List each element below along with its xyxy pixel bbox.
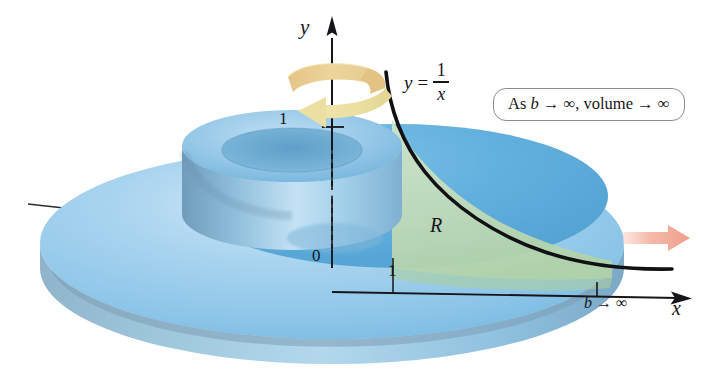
region-label-R: R — [430, 215, 442, 235]
motion-arrow — [623, 225, 690, 251]
callout-variable: b — [530, 94, 538, 113]
x-axis-label: x — [672, 298, 681, 318]
curve-equation-label: y = 1 x — [404, 62, 449, 104]
figure-container: y x 1 0 1 R b → ∞ y = 1 x As b → ∞, volu… — [0, 0, 715, 374]
origin-label: 0 — [312, 247, 321, 264]
x-limit-rest: → ∞ — [592, 294, 627, 311]
solid-of-revolution-diagram — [0, 0, 715, 374]
y-axis-label: y — [300, 17, 309, 38]
x-axis-limit-label: b → ∞ — [584, 295, 627, 311]
callout-text: → ∞, volume → ∞ — [539, 94, 670, 113]
equation-numerator: 1 — [435, 61, 448, 80]
hole-bottom-dashes — [287, 223, 383, 253]
equation-fraction: 1 x — [433, 61, 449, 103]
equation-lhs: y — [404, 73, 412, 92]
fraction-bar — [433, 81, 449, 83]
x-limit-variable: b — [584, 294, 592, 311]
equation-denominator: x — [435, 84, 447, 103]
x-axis-tick-label-1: 1 — [388, 262, 397, 279]
equation-equals-sign: = — [417, 73, 428, 92]
y-axis-tick-label-1: 1 — [279, 110, 288, 127]
callout-annotation: As b → ∞, volume → ∞ — [493, 88, 685, 121]
callout-prefix: As — [508, 94, 530, 113]
